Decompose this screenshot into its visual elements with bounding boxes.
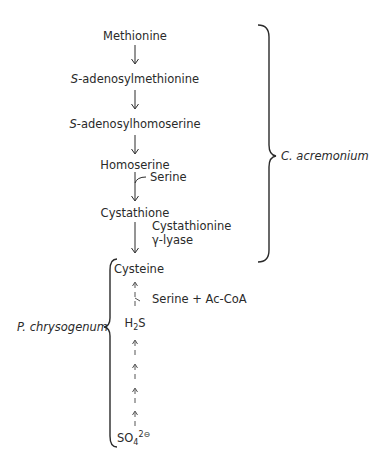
label-serine-branch: Serine bbox=[150, 170, 187, 184]
enzyme-label-line1: Cystathionine bbox=[152, 219, 231, 233]
sah-name: -adenosylhomoserine bbox=[77, 117, 201, 131]
label-serine-acoa: Serine + Ac-CoA bbox=[152, 292, 247, 306]
arrow-homoserine-to-cystathione bbox=[132, 172, 147, 201]
arrow-sah-to-homoserine bbox=[132, 135, 139, 154]
sam-name: -adenosylmethionine bbox=[78, 72, 199, 86]
arrow-methionine-to-sam bbox=[132, 45, 139, 64]
right-brace-c-acremonium bbox=[258, 25, 276, 262]
organism-label-p-chrysogenum: P. chrysogenum bbox=[17, 320, 108, 334]
sulfate-base: SO bbox=[117, 431, 133, 445]
h2s-s: S bbox=[138, 316, 145, 330]
sulfate-subscript: 4 bbox=[133, 438, 138, 447]
dashed-arrow-h2s-to-cysteine bbox=[133, 282, 141, 306]
node-h2s: H2S bbox=[124, 316, 145, 330]
node-cystathione: Cystathione bbox=[101, 206, 170, 220]
left-brace-p-chrysogenum bbox=[104, 259, 117, 447]
organism-label-c-acremonium: C. acremonium bbox=[281, 149, 369, 163]
node-s-adenosylmethionine: S-adenosylmethionine bbox=[71, 72, 199, 86]
sulfate-charge: 2⊖ bbox=[138, 430, 150, 439]
arrow-cystathione-to-cysteine bbox=[132, 222, 139, 253]
node-s-adenosylhomoserine: S-adenosylhomoserine bbox=[69, 117, 200, 131]
node-cysteine: Cysteine bbox=[114, 262, 164, 276]
dashed-arrow-sulfate-to-h2s bbox=[133, 340, 138, 426]
enzyme-label-line2: γ-lyase bbox=[152, 233, 193, 247]
arrow-sam-to-sah bbox=[132, 90, 139, 109]
node-methionine: Methionine bbox=[103, 29, 167, 43]
node-sulfate: SO42⊖ bbox=[117, 431, 150, 445]
h2s-h: H bbox=[124, 316, 133, 330]
